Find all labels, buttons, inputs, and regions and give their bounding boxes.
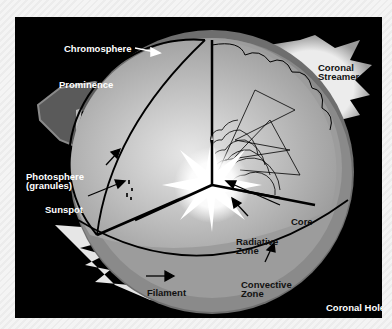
label-chromosphere: Chromosphere [64, 44, 132, 54]
label-convective-2: Zone [241, 289, 264, 299]
label-coronal-hole: Coronal Hole [326, 303, 382, 313]
label-coronal-streamer-2: Streamer [318, 72, 359, 82]
label-prominence: Prominence [59, 80, 113, 90]
label-sunspot: Sunspot [45, 205, 83, 215]
label-core: Core [291, 217, 313, 227]
label-photosphere-2: (granules) [26, 181, 72, 191]
diagram-panel: Chromosphere Prominence Coronal Streamer… [15, 17, 382, 318]
label-filament: Filament [147, 288, 186, 298]
label-radiative-2: Zone [236, 246, 259, 256]
